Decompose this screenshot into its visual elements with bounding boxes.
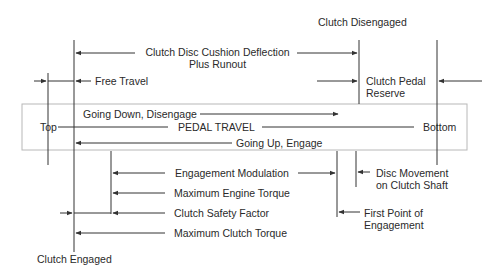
first-point-line1: First Point of: [364, 207, 424, 219]
disc-movement-label: Disc Movement on Clutch Shaft: [376, 167, 448, 191]
bottom-label: Bottom: [423, 121, 456, 133]
max-clutch-torque-label: Maximum Clutch Torque: [174, 227, 287, 239]
reserve-line2: Reserve: [366, 87, 426, 99]
first-point-label: First Point of Engagement: [364, 207, 424, 231]
pedal-travel-label: PEDAL TRAVEL: [178, 121, 255, 133]
going-up-label: Going Up, Engage: [236, 137, 322, 149]
free-travel-label: Free Travel: [95, 75, 148, 87]
reserve-line1: Clutch Pedal: [366, 75, 426, 87]
top-label: Top: [40, 121, 57, 133]
going-down-label: Going Down, Disengage: [83, 108, 197, 120]
cushion-deflection-line2: Plus Runout: [140, 58, 295, 70]
clutch-engaged-label: Clutch Engaged: [37, 253, 112, 265]
cushion-deflection-label: Clutch Disc Cushion Deflection Plus Runo…: [140, 46, 295, 70]
disc-movement-line1: Disc Movement: [376, 167, 448, 179]
disc-movement-line2: on Clutch Shaft: [376, 179, 448, 191]
clutch-safety-factor-label: Clutch Safety Factor: [174, 207, 269, 219]
max-engine-torque-label: Maximum Engine Torque: [174, 187, 290, 199]
clutch-disengaged-label: Clutch Disengaged: [318, 16, 407, 28]
clutch-pedal-reserve-label: Clutch Pedal Reserve: [366, 75, 426, 99]
cushion-deflection-line1: Clutch Disc Cushion Deflection: [140, 46, 295, 58]
engagement-modulation-label: Engagement Modulation: [175, 167, 289, 179]
first-point-line2: Engagement: [364, 219, 424, 231]
